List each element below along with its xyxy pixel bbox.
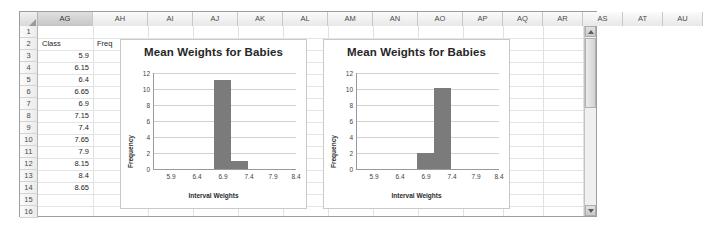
column-header-aq[interactable]: AQ bbox=[503, 12, 543, 26]
row-header-3[interactable]: 3 bbox=[20, 50, 38, 62]
scroll-up-button[interactable] bbox=[585, 26, 596, 37]
cell-ag14-class[interactable]: 8.65 bbox=[39, 182, 93, 194]
chart-1-plot-area: 0 2 4 6 8 10 12 5.9 6.4 6.9 7.4 7.9 8.4 bbox=[153, 73, 296, 170]
chart-2[interactable]: Mean Weights for Babies Frequency 0 2 4 … bbox=[323, 39, 510, 209]
vertical-scrollbar[interactable] bbox=[584, 26, 596, 216]
column-header-at[interactable]: AT bbox=[623, 12, 663, 26]
row-header-1[interactable]: 1 bbox=[20, 26, 38, 38]
chart-2-x-axis bbox=[356, 169, 499, 170]
gridline bbox=[356, 89, 499, 90]
chart-2-xtick-3: 7.4 bbox=[447, 173, 456, 180]
chart-1-xtick-4: 7.9 bbox=[268, 173, 277, 180]
chart-1-ytick-10: 10 bbox=[143, 86, 150, 93]
column-header-al[interactable]: AL bbox=[283, 12, 328, 26]
chart-2-plot-area: 0 2 4 6 8 10 12 5.9 6.4 6.9 7.4 7.9 8.4 bbox=[356, 73, 499, 170]
column-header-ai[interactable]: AI bbox=[148, 12, 193, 26]
chevron-up-icon bbox=[588, 30, 594, 34]
chart-2-xtick-2: 6.9 bbox=[421, 173, 430, 180]
column-header-ah[interactable]: AH bbox=[93, 12, 148, 26]
chart-2-y-axis bbox=[356, 73, 357, 170]
row-header-9[interactable]: 9 bbox=[20, 122, 38, 134]
chart-2-bar-1[interactable] bbox=[434, 88, 451, 169]
select-all-corner[interactable] bbox=[20, 12, 38, 26]
chart-2-bar-0[interactable] bbox=[417, 153, 434, 169]
row-header-5[interactable]: 5 bbox=[20, 74, 38, 86]
column-header-row: AG AH AI AJ AK AL AM AN AO AP AQ AR AS A… bbox=[20, 12, 596, 26]
chart-2-ytick-12: 12 bbox=[346, 70, 353, 77]
column-header-ag[interactable]: AG bbox=[38, 12, 93, 26]
chart-1-xtick-5: 8.4 bbox=[291, 173, 300, 180]
row-header-11[interactable]: 11 bbox=[20, 146, 38, 158]
row-header-6[interactable]: 6 bbox=[20, 86, 38, 98]
column-header-au[interactable]: AU bbox=[663, 12, 703, 26]
chart-1-ytick-8: 8 bbox=[146, 102, 150, 109]
grid-frame: AG AH AI AJ AK AL AM AN AO AP AQ AR AS A… bbox=[19, 11, 597, 217]
chart-1-bar-1[interactable] bbox=[231, 161, 248, 169]
chart-1-xtick-3: 7.4 bbox=[244, 173, 253, 180]
row-header-16[interactable]: 16 bbox=[20, 206, 38, 218]
row-header-10[interactable]: 10 bbox=[20, 134, 38, 146]
scroll-down-button[interactable] bbox=[585, 205, 596, 216]
row-header-7[interactable]: 7 bbox=[20, 98, 38, 110]
chart-1-x-axis-label: Interval Weights bbox=[121, 192, 306, 199]
chart-2-xtick-1: 6.4 bbox=[395, 173, 404, 180]
chart-2-ytick-4: 4 bbox=[349, 134, 353, 141]
cell-ag4-class[interactable]: 6.15 bbox=[39, 62, 93, 74]
chart-1-y-axis bbox=[153, 73, 154, 170]
gridline bbox=[356, 105, 499, 106]
chart-1-xtick-0: 5.9 bbox=[166, 173, 175, 180]
cell-ag7-class[interactable]: 6.9 bbox=[39, 98, 93, 110]
chart-1-ytick-6: 6 bbox=[146, 118, 150, 125]
row-header-12[interactable]: 12 bbox=[20, 158, 38, 170]
gridline bbox=[356, 73, 499, 74]
cell-ag10-class[interactable]: 7.65 bbox=[39, 134, 93, 146]
chart-2-ytick-10: 10 bbox=[346, 86, 353, 93]
column-header-ao[interactable]: AO bbox=[418, 12, 463, 26]
cell-ag9-class[interactable]: 7.4 bbox=[39, 122, 93, 134]
cell-ag6-class[interactable]: 6.65 bbox=[39, 86, 93, 98]
row-header-13[interactable]: 13 bbox=[20, 170, 38, 182]
chart-2-xtick-4: 7.9 bbox=[471, 173, 480, 180]
column-header-ak[interactable]: AK bbox=[238, 12, 283, 26]
column-header-ap[interactable]: AP bbox=[463, 12, 503, 26]
row-header-14[interactable]: 14 bbox=[20, 182, 38, 194]
row-header-8[interactable]: 8 bbox=[20, 110, 38, 122]
column-header-aj[interactable]: AJ bbox=[193, 12, 238, 26]
select-all-triangle-icon bbox=[29, 19, 36, 26]
column-divider bbox=[543, 26, 544, 216]
scrollbar-thumb[interactable] bbox=[585, 38, 596, 108]
row-header-2[interactable]: 2 bbox=[20, 38, 38, 50]
chart-1-title: Mean Weights for Babies bbox=[121, 46, 306, 58]
cell-ag8-class[interactable]: 7.15 bbox=[39, 110, 93, 122]
chart-2-xtick-5: 8.4 bbox=[494, 173, 503, 180]
cell-ag5-class[interactable]: 6.4 bbox=[39, 74, 93, 86]
gridline bbox=[153, 73, 296, 74]
chart-1-ytick-2: 2 bbox=[146, 150, 150, 157]
chart-1[interactable]: Mean Weights for Babies Frequency 0 2 4 … bbox=[120, 39, 307, 209]
chart-2-xtick-0: 5.9 bbox=[369, 173, 378, 180]
cell-ag12-class[interactable]: 8.15 bbox=[39, 158, 93, 170]
column-header-an[interactable]: AN bbox=[373, 12, 418, 26]
column-header-ar[interactable]: AR bbox=[543, 12, 583, 26]
chart-1-xtick-1: 6.4 bbox=[192, 173, 201, 180]
column-header-am[interactable]: AM bbox=[328, 12, 373, 26]
chart-1-y-axis-label: Frequency bbox=[127, 135, 134, 168]
row-header-4[interactable]: 4 bbox=[20, 62, 38, 74]
cell-ag13-class[interactable]: 8.4 bbox=[39, 170, 93, 182]
chart-2-ytick-8: 8 bbox=[349, 102, 353, 109]
chart-2-ytick-0: 0 bbox=[349, 166, 353, 173]
cell-ag2-class-header[interactable]: Class bbox=[39, 38, 93, 50]
chart-2-ytick-2: 2 bbox=[349, 150, 353, 157]
row-header-15[interactable]: 15 bbox=[20, 194, 38, 206]
cell-ag3-class[interactable]: 5.9 bbox=[39, 50, 93, 62]
gridline bbox=[356, 137, 499, 138]
chart-2-x-axis-label: Interval Weights bbox=[324, 192, 509, 199]
chart-1-bar-0[interactable] bbox=[214, 80, 231, 169]
gridline bbox=[356, 121, 499, 122]
cell-ag11-class[interactable]: 7.9 bbox=[39, 146, 93, 158]
chart-1-x-axis bbox=[153, 169, 296, 170]
chart-2-title: Mean Weights for Babies bbox=[324, 46, 509, 58]
chart-1-ytick-0: 0 bbox=[146, 166, 150, 173]
column-header-as[interactable]: AS bbox=[583, 12, 623, 26]
